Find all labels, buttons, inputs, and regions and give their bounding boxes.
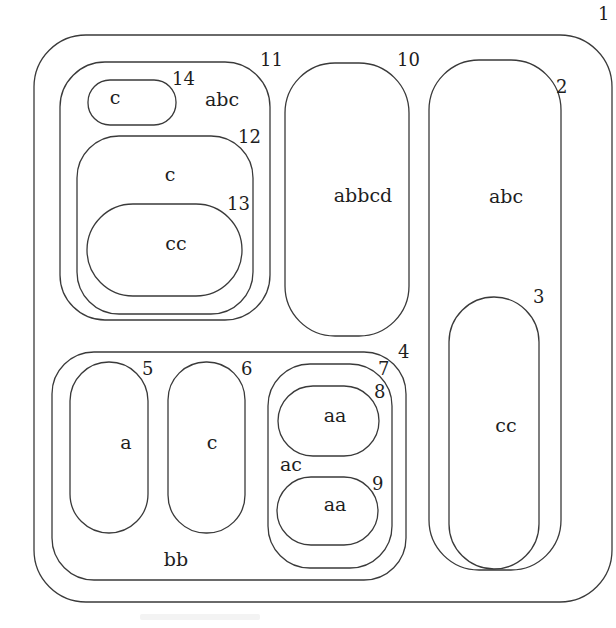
region-label-8: aa [324,404,347,426]
region-5 [70,362,148,533]
labels-layer: 12abc3cc4bb5a6c7ac8aa9aa10abbcd11abc12c1… [110,3,610,570]
region-label-2: abc [489,185,523,207]
region-4 [52,352,406,580]
region-number-11: 11 [260,49,283,70]
region-label-4: bb [164,548,188,570]
region-number-4: 4 [398,341,409,362]
regions-layer [34,35,612,602]
nested-regions-diagram: 12abc3cc4bb5a6c7ac8aa9aa10abbcd11abc12c1… [0,0,616,628]
region-label-12: c [165,163,176,185]
region-number-13: 13 [227,193,250,214]
region-number-3: 3 [533,286,544,307]
region-number-5: 5 [142,358,153,379]
region-number-6: 6 [241,358,252,379]
region-number-12: 12 [238,126,261,147]
region-label-6: c [207,431,218,453]
caption-fragment [140,614,260,620]
region-1 [34,35,612,602]
region-3 [449,297,539,569]
region-label-10: abbcd [334,184,392,206]
region-14 [88,80,176,125]
region-number-10: 10 [397,49,420,70]
region-number-1: 1 [598,3,609,24]
region-label-13: cc [165,232,186,254]
region-label-9: aa [324,493,347,515]
region-label-11: abc [205,88,239,110]
region-label-3: cc [495,414,516,436]
region-number-7: 7 [378,358,389,379]
region-label-5: a [120,431,131,453]
region-number-14: 14 [172,68,195,89]
region-label-7: ac [280,453,302,475]
region-number-8: 8 [374,381,385,402]
region-number-9: 9 [372,473,383,494]
region-label-14: c [110,86,121,108]
region-number-2: 2 [556,76,567,97]
